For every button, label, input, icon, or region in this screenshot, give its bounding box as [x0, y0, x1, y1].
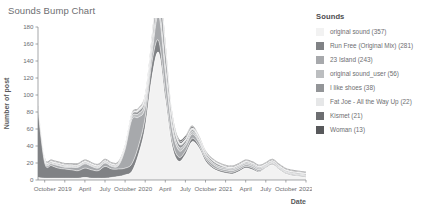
- x-tick-label: October: [114, 185, 136, 192]
- y-tick-label: 80: [27, 108, 34, 115]
- x-tick-label: July: [180, 185, 192, 192]
- legend-item-label: Run Free (Original Mix) (281): [330, 43, 413, 49]
- legend-color-swatch: [316, 126, 324, 134]
- legend-color-swatch: [316, 98, 324, 106]
- legend-item[interactable]: Kismet (21): [316, 109, 440, 123]
- legend-color-swatch: [316, 70, 324, 78]
- legend-item[interactable]: Run Free (Original Mix) (281): [316, 39, 440, 53]
- y-tick-label: 100: [23, 91, 34, 98]
- x-tick-label: October: [34, 185, 56, 192]
- legend-item[interactable]: Fat Joe - All the Way Up (22): [316, 95, 440, 109]
- legend-color-swatch: [316, 28, 324, 36]
- legend-item-label: Kismet (21): [330, 113, 363, 119]
- x-tick-label: April: [159, 185, 171, 192]
- y-axis-title: Number of post: [3, 77, 11, 129]
- legend-item[interactable]: 23 Island (243): [316, 53, 440, 67]
- x-tick-label: July: [260, 185, 272, 192]
- y-tick-label: 140: [23, 57, 34, 64]
- x-tick-label: October: [194, 185, 216, 192]
- legend-color-swatch: [316, 42, 324, 50]
- x-tick-label: April: [79, 185, 91, 192]
- legend-item-label: Woman (13): [330, 127, 365, 133]
- legend-item[interactable]: original sound (357): [316, 25, 440, 39]
- legend-color-swatch: [316, 84, 324, 92]
- legend-item[interactable]: I like shoes (38): [316, 81, 440, 95]
- x-tick-label: 2021: [219, 185, 233, 192]
- y-tick-label: 180: [23, 23, 34, 30]
- y-tick-label: 20: [27, 159, 34, 166]
- y-tick-label: 40: [27, 142, 34, 149]
- x-tick-label: 2022: [299, 185, 312, 192]
- y-tick-label: 160: [23, 40, 34, 47]
- x-tick-label: October: [275, 185, 297, 192]
- legend-item-label: original sound_user (56): [330, 71, 399, 77]
- legend-item-label: I like shoes (38): [330, 85, 375, 91]
- legend-item[interactable]: Woman (13): [316, 123, 440, 137]
- x-tick-label: July: [99, 185, 111, 192]
- legend-items: original sound (357)Run Free (Original M…: [316, 25, 440, 137]
- legend-color-swatch: [316, 56, 324, 64]
- page-title: Sounds Bump Chart: [8, 5, 95, 16]
- y-tick-label: 0: [30, 176, 34, 183]
- chart-plot-area: 020406080100120140160180October2019April…: [0, 18, 312, 216]
- bump-chart-svg: 020406080100120140160180October2019April…: [0, 18, 312, 216]
- legend-title: Sounds: [316, 12, 440, 21]
- x-axis-title: Date: [291, 198, 306, 205]
- x-tick-label: 2019: [58, 185, 72, 192]
- y-tick-label: 60: [27, 125, 34, 132]
- legend-item-label: Fat Joe - All the Way Up (22): [330, 99, 412, 105]
- y-tick-label: 120: [23, 74, 34, 81]
- legend-item-label: original sound (357): [330, 29, 387, 35]
- legend-color-swatch: [316, 112, 324, 120]
- x-tick-label: 2020: [138, 185, 152, 192]
- legend-item[interactable]: original sound_user (56): [316, 67, 440, 81]
- chart-legend: Sounds original sound (357)Run Free (Ori…: [316, 12, 440, 137]
- x-tick-label: April: [240, 185, 252, 192]
- legend-item-label: 23 Island (243): [330, 57, 373, 63]
